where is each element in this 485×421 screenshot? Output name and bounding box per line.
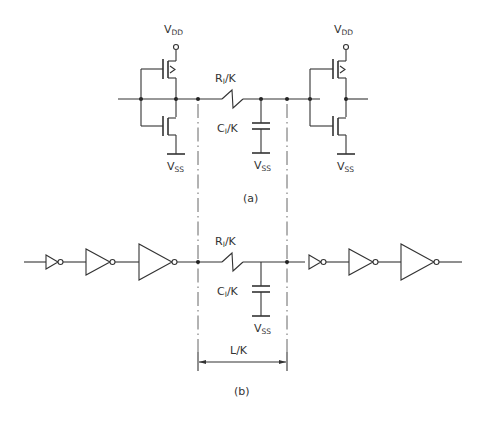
part-a-circuit: VDD VSS RI/K CI/K VSS [118, 23, 368, 205]
svg-text:VDD: VDD [334, 23, 353, 37]
circuit-diagram: VDD VSS RI/K CI/K VSS [0, 0, 485, 421]
svg-text:CI/K: CI/K [217, 285, 239, 299]
left-cmos-inverter: VDD VSS [118, 23, 185, 174]
length-dimension: L/K [198, 344, 287, 371]
dashed-guides [198, 104, 287, 352]
svg-text:VDD: VDD [164, 23, 183, 37]
svg-text:VSS: VSS [167, 160, 184, 174]
caption-a: (a) [243, 192, 258, 205]
svg-text:VSS: VSS [337, 160, 354, 174]
svg-text:VSS: VSS [254, 159, 271, 173]
svg-text:RI/K: RI/K [215, 235, 237, 249]
interconnect-b: RI/K CI/K VSS [215, 235, 305, 336]
length-label: L/K [230, 344, 248, 357]
part-b-circuit: RI/K CI/K VSS L/K (b) [24, 235, 462, 398]
svg-text:CI/K: CI/K [217, 122, 239, 136]
inverter-stage-3-right [401, 244, 434, 280]
inverter-stage-1-right [309, 255, 321, 269]
inverter-stage-2-right [349, 249, 373, 275]
inverter-stage-1-left [46, 255, 58, 269]
caption-b: (b) [234, 385, 250, 398]
svg-text:RI/K: RI/K [215, 72, 237, 86]
right-buffer-chain [309, 244, 462, 280]
inverter-stage-2-left [86, 249, 110, 275]
svg-text:VSS: VSS [254, 322, 271, 336]
inverter-stage-3-left [139, 244, 172, 280]
left-buffer-chain [24, 244, 222, 280]
